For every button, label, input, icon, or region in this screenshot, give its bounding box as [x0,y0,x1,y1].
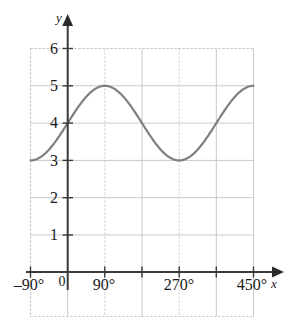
x-tick-label-450: 450° [237,276,267,293]
x-tick-label-90: 90° [93,276,115,293]
origin-label: 0 [59,274,66,289]
y-tick-label-3: 3 [50,152,58,169]
y-tick-label-5: 5 [50,77,58,94]
sine-function-graph: 6 5 4 3 2 1 –90° 0 90° 270° 450° y x [0,0,297,333]
y-tick-label-6: 6 [50,40,58,57]
chart-figure: 6 5 4 3 2 1 –90° 0 90° 270° 450° y x [0,0,297,333]
y-axis-label: y [54,10,62,25]
x-tick-label-neg90: –90° [13,276,44,293]
y-tick-label-4: 4 [50,114,58,131]
y-tick-label-2: 2 [50,189,58,206]
y-tick-label-1: 1 [50,226,58,243]
x-axis-label: x [270,276,277,291]
x-tick-label-270: 270° [164,276,194,293]
